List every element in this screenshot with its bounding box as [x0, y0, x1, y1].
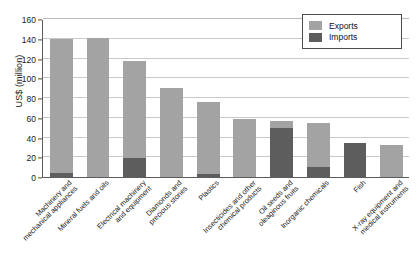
x-axis-label: X-ray equipment and medical instruments — [335, 179, 411, 255]
bar-group — [307, 123, 330, 177]
bar-group — [50, 39, 73, 177]
y-tick-label-140: 140 — [22, 35, 36, 45]
bar-group — [233, 119, 256, 177]
y-tick-label-60: 60 — [27, 114, 36, 124]
bar-group — [270, 121, 293, 177]
bar-segment-imports — [197, 174, 220, 177]
legend-item-label: Imports — [329, 32, 357, 42]
y-tick-label-20: 20 — [27, 153, 36, 163]
bar-segment-imports — [123, 158, 146, 177]
y-tick-label-100: 100 — [22, 74, 36, 84]
y-tick-label-80: 80 — [27, 94, 36, 104]
legend-swatch-icon — [309, 21, 322, 30]
bar-segment-exports — [123, 61, 146, 159]
bar-group — [123, 61, 146, 178]
bar-segment-exports — [87, 38, 110, 177]
legend-item-imports: Imports — [309, 32, 396, 42]
bar-segment-imports — [344, 143, 367, 177]
legend-swatch-icon — [309, 33, 322, 42]
bar-segment-exports — [197, 102, 220, 174]
bar-group — [344, 143, 367, 177]
y-tick-label-0: 0 — [31, 173, 36, 183]
bar-group — [380, 145, 403, 177]
y-tick-label-120: 120 — [22, 55, 36, 65]
bar-segment-exports — [307, 123, 330, 167]
bar-segment-exports — [380, 145, 403, 177]
x-axis-labels: Machinery and mechanical appliancesMiner… — [42, 179, 409, 257]
bar-segment-exports — [270, 121, 293, 128]
legend-item-label: Exports — [329, 21, 358, 31]
bar-segment-imports — [270, 128, 293, 177]
bar-group — [87, 38, 110, 177]
bar-chart: US$ (million) 020406080100120140160 Mach… — [0, 0, 417, 257]
bar-segment-imports — [50, 173, 73, 177]
y-tick-label-40: 40 — [27, 134, 36, 144]
bar-segment-exports — [160, 88, 183, 177]
chart-legend: ExportsImports — [302, 14, 402, 49]
bar-group — [160, 88, 183, 177]
y-tick-label-160: 160 — [22, 15, 36, 25]
y-axis-ticks: 020406080100120140160 — [0, 20, 42, 178]
bar-segment-imports — [307, 167, 330, 177]
legend-item-exports: Exports — [309, 21, 396, 31]
bar-group — [197, 102, 220, 177]
bar-segment-exports — [233, 119, 256, 177]
bar-segment-exports — [50, 39, 73, 173]
